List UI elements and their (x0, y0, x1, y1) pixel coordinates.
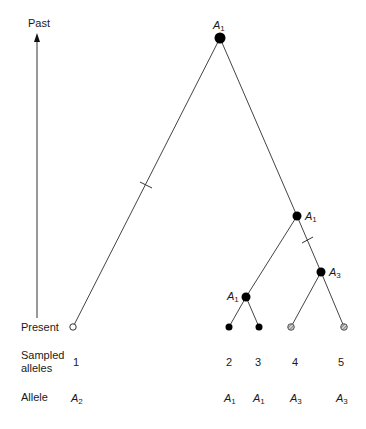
sample-allele-2: A1 (224, 392, 236, 408)
sample-number-2: 2 (226, 356, 232, 369)
sample-allele-3: A1 (253, 392, 265, 408)
sample-allele-5: A3 (336, 392, 348, 408)
tip-5-hatched (341, 324, 348, 331)
sample-number-3: 3 (255, 356, 261, 369)
mutation-tick-right (302, 237, 313, 243)
sample-number-4: 4 (292, 356, 298, 369)
sample-allele-1: A2 (71, 392, 83, 408)
tip-2-filled (226, 324, 233, 331)
sample-number-1: 1 (73, 356, 79, 369)
a1-clade-allele-label: A1 (227, 290, 239, 306)
past-label: Past (28, 17, 50, 30)
sampled-label-1: Sampled (21, 349, 64, 362)
present-label: Present (21, 321, 59, 334)
tip-4-hatched (288, 324, 295, 331)
time-arrow-icon (34, 33, 40, 318)
sample-number-5: 5 (338, 356, 344, 369)
tip-1-open (70, 324, 76, 330)
tree-branches (73, 38, 344, 327)
right-clade-node (293, 212, 302, 221)
tip-3-filled (256, 324, 263, 331)
sample-allele-4: A3 (290, 392, 302, 408)
root-allele-label: A1 (213, 19, 225, 35)
sampled-label-2: alleles (21, 362, 52, 375)
allele-row-label: Allele (21, 391, 48, 404)
right-clade-allele-label: A1 (305, 210, 317, 226)
a1-clade-node (242, 293, 251, 302)
a3-clade-allele-label: A3 (329, 266, 341, 282)
a3-clade-node (317, 268, 326, 277)
